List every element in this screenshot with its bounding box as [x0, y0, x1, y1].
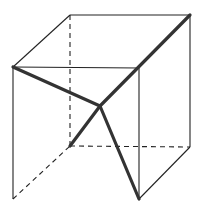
- cube-edge: [13, 15, 70, 67]
- hidden-edge: [13, 146, 70, 199]
- bold-segment: [13, 67, 100, 106]
- cube-diagram: [0, 0, 201, 216]
- bold-segment: [100, 15, 190, 106]
- cube-edge: [139, 147, 190, 199]
- bold-segment: [100, 106, 139, 199]
- cube-edge: [13, 67, 139, 68]
- hidden-edge: [70, 146, 190, 147]
- bold-segment: [70, 106, 100, 146]
